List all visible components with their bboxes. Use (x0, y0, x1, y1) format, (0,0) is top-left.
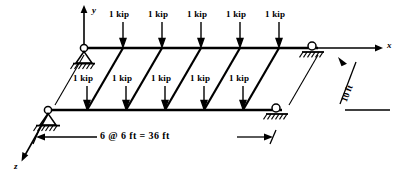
load-label-bottom-4: 1 kip (190, 74, 210, 83)
x-axis-label: x (387, 41, 392, 50)
load-label-top-2: 1 kip (148, 10, 168, 19)
load-label-bottom-5: 1 kip (229, 74, 249, 83)
load-label-bottom-3: 1 kip (151, 74, 171, 83)
structural-diagram: y x z 1 kip 1 kip 1 kip 1 kip 1 kip 1 ki… (0, 0, 403, 178)
load-label-top-1: 1 kip (109, 10, 129, 19)
y-axis (81, 5, 88, 48)
span-dimension-label: 6 @ 6 ft = 36 ft (100, 131, 170, 141)
x-axis (318, 45, 383, 52)
load-label-bottom-1: 1 kip (73, 74, 93, 83)
support-bottom-right (264, 104, 289, 119)
load-label-top-3: 1 kip (187, 10, 207, 19)
load-label-top-4: 1 kip (226, 10, 246, 19)
z-axis-label: z (14, 162, 18, 171)
load-label-bottom-2: 1 kip (112, 74, 132, 83)
support-top-right (300, 42, 325, 57)
y-axis-label: y (92, 6, 96, 15)
load-label-top-5: 1 kip (265, 10, 285, 19)
bottom-load-arrows (84, 86, 246, 109)
top-load-arrows (120, 22, 282, 47)
